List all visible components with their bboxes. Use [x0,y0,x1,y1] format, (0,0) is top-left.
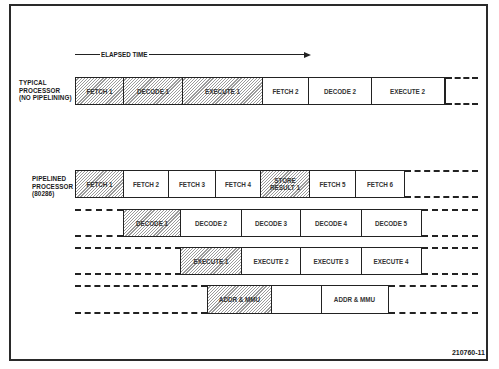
continuation-dash [75,285,207,287]
cell-text: DECODE 1 [137,88,169,95]
continuation-dash [389,312,478,314]
cell-text: EXECUTE 3 [314,258,349,265]
cell-text: FETCH 1 [86,181,112,188]
cell-text: FETCH 5 [319,181,345,188]
cell-text: FETCH 6 [367,181,393,188]
cell-text: EXECUTE 2 [390,88,425,95]
arrow-right-icon [304,52,311,58]
continuation-dash [405,196,478,198]
cell-text: EXECUTE 1 [194,258,229,265]
typical-cell-execute-2: EXECUTE 2 [371,77,446,105]
pipeline-cell-store-result-1: STORE RESULT 1 [260,170,310,198]
continuation-dash [446,77,478,79]
typical-cell-fetch-1: FETCH 1 [75,77,124,105]
label-line: (NO PIPELINING) [19,94,72,102]
continuation-dash [422,273,478,275]
pipeline-cell-decode-4: DECODE 4 [300,209,362,237]
typical-processor-label: TYPICAL PROCESSOR (NO PIPELINING) [19,79,72,102]
pipeline-cell-fetch-4: FETCH 4 [215,170,262,198]
typical-cell-fetch-2: FETCH 2 [262,77,310,105]
cell-text: RESULT 1 [270,184,300,191]
cell-text: DECODE 4 [315,220,347,227]
figure-number: 210760-11 [452,349,485,356]
pipeline-cell-fetch-5: FETCH 5 [309,170,357,198]
pipeline-cell-decode-5: DECODE 5 [361,209,422,237]
elapsed-time-axis: ELAPSED TIME [75,51,309,58]
cell-text: FETCH 3 [179,181,205,188]
timeline-label: ELAPSED TIME [100,51,149,58]
cell-text: EXECUTE 1 [205,88,240,95]
cell-text: DECODE 2 [324,88,356,95]
pipeline-cell-decode-3: DECODE 3 [241,209,302,237]
pipeline-cell-idle [271,285,322,314]
timeline-line-left [75,54,100,55]
continuation-dash [75,235,123,237]
continuation-dash [422,209,478,211]
pipeline-cell-execute-4: EXECUTE 4 [361,247,422,275]
pipeline-cell-execute-3: EXECUTE 3 [300,247,362,275]
typical-cell-decode-2: DECODE 2 [308,77,372,105]
cell-text: ADDR & MMU [219,296,260,303]
pipeline-cell-execute-2: EXECUTE 2 [241,247,302,275]
continuation-dash [405,170,478,172]
label-line: PIPELINED [32,175,73,183]
cell-text: FETCH 2 [133,181,159,188]
typical-cell-decode-1: DECODE 1 [123,77,184,105]
cell-text: EXECUTE 4 [374,258,409,265]
cell-text: DECODE 3 [255,220,287,227]
continuation-dash [422,247,478,249]
continuation-dash [422,235,478,237]
label-line: PROCESSOR [19,87,72,95]
pipelined-processor-label: PIPELINED PROCESSOR (80286) [32,175,73,198]
cell-text: DECODE 1 [136,220,168,227]
pipeline-cell-fetch-1: FETCH 1 [75,170,124,198]
continuation-dash [75,312,207,314]
label-line: TYPICAL [19,79,72,87]
cell-text: DECODE 2 [195,220,227,227]
cell-text: STORE [274,177,296,184]
label-line: PROCESSOR [32,183,73,191]
continuation-dash [75,273,181,275]
typical-cell-execute-1: EXECUTE 1 [182,77,263,105]
timeline-line-right [141,54,307,55]
cell-text: FETCH 4 [225,181,251,188]
pipeline-cell-fetch-2: FETCH 2 [123,170,170,198]
pipeline-cell-decode-1: DECODE 1 [123,209,182,237]
pipeline-cell-fetch-6: FETCH 6 [355,170,405,198]
continuation-dash [389,285,478,287]
cell-text: DECODE 5 [375,220,407,227]
cell-text: ADDR & MMU [334,296,375,303]
pipeline-cell-fetch-3: FETCH 3 [168,170,216,198]
cell-text: FETCH 2 [272,88,298,95]
label-line: (80286) [32,190,73,198]
pipeline-cell-decode-2: DECODE 2 [180,209,242,237]
cell-text: FETCH 1 [86,88,112,95]
pipeline-cell-execute-1: EXECUTE 1 [180,247,242,275]
continuation-dash [75,209,123,211]
continuation-dash [75,247,181,249]
pipeline-cell-addr-mmu-2: ADDR & MMU [321,285,389,314]
cell-text: EXECUTE 2 [254,258,289,265]
continuation-dash [446,103,478,105]
pipeline-cell-addr-mmu-1: ADDR & MMU [207,285,273,314]
